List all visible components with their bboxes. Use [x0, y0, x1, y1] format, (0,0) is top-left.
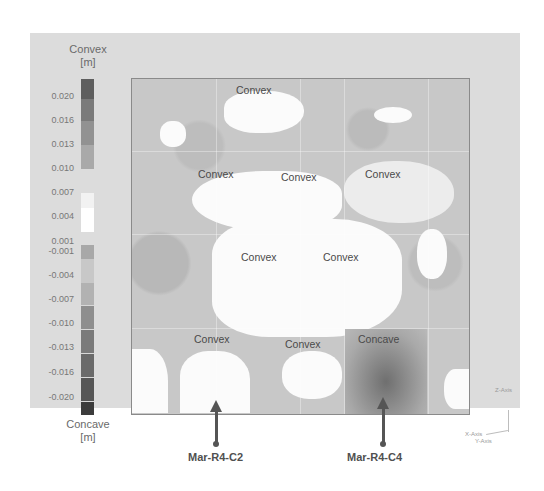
colorbar-top-title: Convex [m] — [48, 43, 128, 69]
convex-blob — [160, 121, 186, 147]
region-label: Convex — [194, 333, 230, 345]
convex-blob — [374, 107, 412, 123]
x-axis-label: X-Axis — [465, 431, 482, 437]
colorbar-segment — [81, 283, 94, 305]
colorbar-segment — [81, 305, 94, 329]
colorbar-tick: 0.020 — [26, 91, 74, 101]
pointer-label-right: Mar-R4-C4 — [347, 451, 402, 463]
colorbar-segment — [81, 245, 94, 259]
colorbar-tick: 0.010 — [26, 163, 74, 173]
colorbar-segment — [81, 121, 94, 145]
colorbar-segment — [81, 99, 94, 121]
y-axis-label: Y-Axis — [475, 438, 492, 444]
colorbar-bottom-title: Concave [m] — [48, 418, 128, 444]
deviation-map: Convex Convex Convex Convex Convex Conve… — [131, 78, 470, 415]
region-label: Convex — [236, 84, 272, 96]
z-axis-label: Z-Axis — [495, 387, 512, 393]
z-axis-line — [508, 410, 509, 432]
region-label: Convex — [323, 251, 359, 263]
colorbar-tick: -0.020 — [26, 392, 74, 402]
colorbar-top-label: Convex — [48, 43, 128, 56]
region-label: Convex — [241, 251, 277, 263]
colorbar-tick: -0.010 — [26, 318, 74, 328]
x-axis-line — [486, 430, 508, 435]
pointer-label-left: Mar-R4-C2 — [188, 451, 243, 463]
pointer-arrow-left — [215, 410, 218, 444]
convex-blob — [212, 219, 402, 337]
tile-grid-line — [132, 234, 469, 235]
colorbar-tick: -0.007 — [26, 294, 74, 304]
colorbar-bottom-label: Concave — [48, 418, 128, 431]
tile-grid-line — [344, 79, 345, 414]
convex-blob — [224, 91, 304, 133]
convex-blob — [132, 349, 168, 413]
colorbar-segment — [81, 353, 94, 377]
colorbar-tick: -0.016 — [26, 367, 74, 377]
colorbar-tick: -0.004 — [26, 270, 74, 280]
colorbar-tick: 0.013 — [26, 139, 74, 149]
tile-grid-line — [132, 328, 469, 329]
colorbar-tick: -0.001 — [26, 246, 74, 256]
colorbar-segment — [81, 208, 94, 232]
pointer-dot — [213, 441, 219, 447]
colorbar-tick: -0.013 — [26, 342, 74, 352]
tile-grid-line — [428, 79, 429, 414]
tile-grid-line — [132, 151, 469, 152]
convex-blob — [444, 369, 469, 409]
region-label: Convex — [285, 338, 321, 350]
colorbar-segment — [81, 169, 94, 193]
region-label: Concave — [358, 333, 399, 345]
colorbar-segment — [81, 145, 94, 169]
region-label: Convex — [365, 168, 401, 180]
colorbar-segment — [81, 232, 94, 245]
region-label: Convex — [281, 171, 317, 183]
colorbar-tick: 0.001 — [26, 236, 74, 246]
convex-blob — [417, 229, 447, 279]
tile-grid-line — [300, 79, 301, 414]
colorbar-segment — [81, 329, 94, 353]
colorbar-segment — [81, 259, 94, 283]
colorbar-segment — [81, 401, 94, 415]
colorbar — [81, 79, 94, 415]
colorbar-tick: 0.007 — [26, 187, 74, 197]
pointer-arrow-right — [382, 407, 385, 444]
colorbar-segment — [81, 79, 94, 99]
tile-grid-line — [216, 79, 217, 414]
colorbar-bottom-unit: [m] — [48, 431, 128, 444]
colorbar-top-unit: [m] — [48, 56, 128, 69]
colorbar-tick: 0.004 — [26, 211, 74, 221]
region-label: Convex — [198, 168, 234, 180]
colorbar-segment — [81, 193, 94, 208]
convex-blob — [282, 351, 342, 399]
pointer-dot — [380, 441, 386, 447]
colorbar-segment — [81, 377, 94, 401]
colorbar-tick: 0.016 — [26, 115, 74, 125]
